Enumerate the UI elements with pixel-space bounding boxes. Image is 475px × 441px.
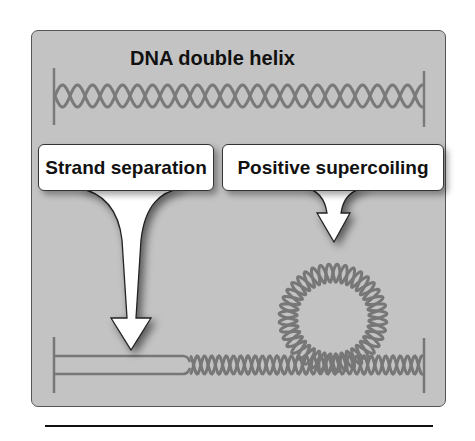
top-helix xyxy=(54,68,424,127)
callout-label: Strand separation xyxy=(45,157,207,179)
strand-separation-arrow xyxy=(78,188,182,350)
callout-label: Positive supercoiling xyxy=(237,157,428,179)
supercoiling-arrow xyxy=(305,188,365,242)
separated-strands xyxy=(55,356,190,362)
bottom-rule xyxy=(45,425,433,427)
bottom-dna xyxy=(54,264,424,393)
callout-strand-separation: Strand separation xyxy=(38,144,214,191)
callout-positive-supercoiling: Positive supercoiling xyxy=(222,144,444,191)
dna-illustration xyxy=(0,0,475,441)
